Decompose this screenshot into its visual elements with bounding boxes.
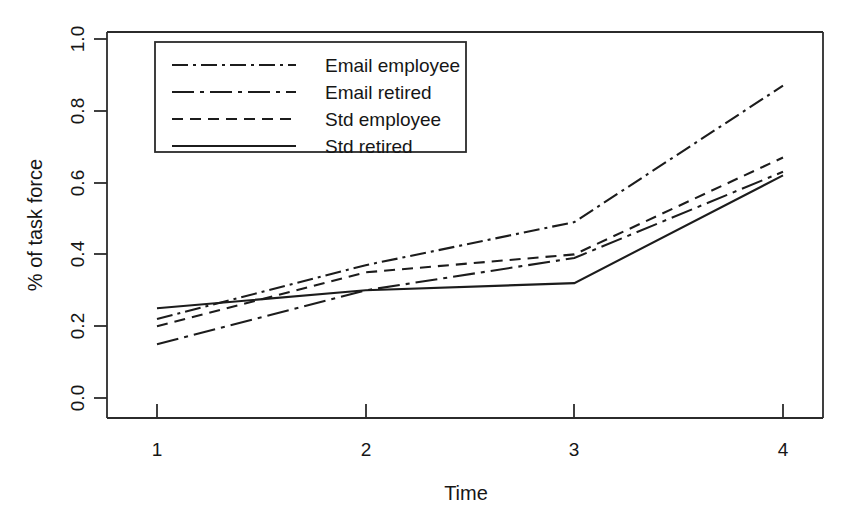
x-axis-title: Time [444, 482, 488, 504]
legend-label-std-employee: Std employee [325, 109, 441, 130]
x-tick-label-3: 4 [778, 439, 789, 460]
x-axis-ticks [157, 404, 783, 418]
y-tick-label-5: 1.0 [67, 26, 88, 52]
x-axis-tick-labels: 1 2 3 4 [152, 439, 789, 460]
y-axis-ticks [94, 39, 107, 398]
series-line-std-retired [157, 175, 783, 308]
y-tick-label-1: 0.2 [67, 313, 88, 339]
line-chart-figure: 0.0 0.2 0.4 0.6 0.8 1.0 % of task force … [0, 0, 850, 514]
legend-label-email-employee: Email employee [325, 55, 460, 76]
x-tick-label-2: 3 [569, 439, 580, 460]
legend-label-email-retired: Email retired [325, 82, 432, 103]
y-axis-title: % of task force [24, 159, 46, 291]
y-tick-label-4: 0.8 [67, 98, 88, 124]
y-tick-label-2: 0.4 [67, 240, 88, 267]
legend-label-std-retired: Std retired [325, 136, 413, 157]
series-line-email-retired [157, 172, 783, 344]
x-tick-label-1: 2 [361, 439, 372, 460]
legend: Email employeeEmail retiredStd employeeS… [155, 42, 466, 157]
x-tick-label-0: 1 [152, 439, 163, 460]
y-axis-tick-labels: 0.0 0.2 0.4 0.6 0.8 1.0 [67, 26, 88, 411]
y-tick-label-0: 0.0 [67, 385, 88, 411]
chart-container: 0.0 0.2 0.4 0.6 0.8 1.0 % of task force … [0, 0, 850, 514]
y-tick-label-3: 0.6 [67, 170, 88, 196]
